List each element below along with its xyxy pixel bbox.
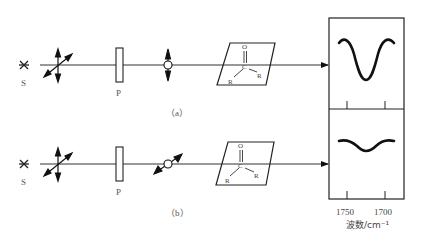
caption-a: （a） <box>166 108 188 118</box>
polarizer-label-b: P <box>116 187 121 197</box>
group-r-left-a: R <box>228 78 233 86</box>
atom-c-a: C <box>242 63 247 71</box>
polarized-ir-diagram: O C R R S P （a） <box>0 0 423 244</box>
group-r-right-b: R <box>254 172 259 180</box>
atom-c-b: C <box>238 162 243 170</box>
caption-b: （b） <box>166 208 189 218</box>
source-label-a: S <box>21 78 26 88</box>
x-tick-label-1700: 1700 <box>374 207 393 217</box>
x-axis-label: 波数/cm⁻¹ <box>346 219 389 230</box>
light-source-icon-b <box>19 160 29 168</box>
source-label-b: S <box>21 177 26 187</box>
light-source-icon-a <box>19 61 29 69</box>
polarizer-label-a: P <box>116 88 121 98</box>
x-tick-label-1750: 1750 <box>336 207 355 217</box>
group-r-left-b: R <box>225 177 230 185</box>
vertical-polarization-icon <box>164 49 172 81</box>
atom-o-b: O <box>238 142 243 150</box>
group-r-right-a: R <box>257 72 262 80</box>
polarizer-a <box>116 48 123 82</box>
row-b: O C R R S P （b） <box>19 142 328 218</box>
atom-o-a: O <box>242 43 247 51</box>
spectrum-panel: 1750 1700 波数/cm⁻¹ <box>329 18 404 230</box>
row-a: O C R R S P （a） <box>19 43 328 118</box>
polarizer-b <box>116 147 123 181</box>
